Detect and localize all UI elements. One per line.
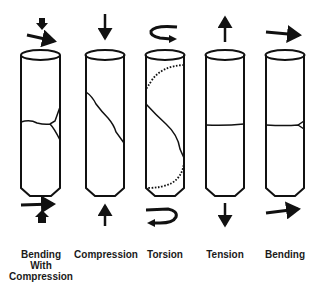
fracture-patterns-diagram <box>0 0 326 287</box>
label-line: Bending <box>246 249 324 260</box>
label-line: Compression <box>2 271 80 282</box>
arrow-icon-bending-bottom-right <box>266 209 298 213</box>
arrow-icon-bending-top <box>27 35 54 41</box>
arrow-icon-up-compression-bottom <box>35 210 49 223</box>
specimen-bending-with-compression <box>21 50 60 196</box>
specimen-compression <box>86 50 125 196</box>
label-line: With <box>2 260 80 271</box>
twist-arrow-icon-top <box>151 27 177 44</box>
label-bending: Bending <box>246 249 324 260</box>
arrow-icon-bending-bottom <box>21 204 53 205</box>
twist-arrow-icon-bottom <box>146 209 176 227</box>
arrow-icon-bending-top-right <box>266 32 299 35</box>
specimen-bending <box>266 50 305 196</box>
arrow-icon-down-compression-top <box>36 18 48 30</box>
specimen-torsion <box>146 50 185 196</box>
specimen-tension <box>206 50 245 196</box>
